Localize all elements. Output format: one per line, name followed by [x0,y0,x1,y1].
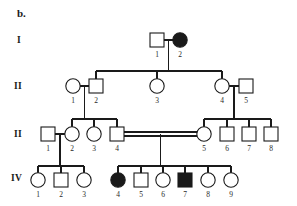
individual-II-1[interactable]: 1 [66,79,80,105]
female-circle-unaffected[interactable] [77,173,91,187]
individual-number: 9 [229,190,233,199]
individual-number: 1 [155,50,159,59]
female-circle-affected[interactable] [111,173,125,187]
male-square-unaffected[interactable] [134,173,148,187]
individual-number: 3 [92,144,96,153]
individual-IV-2[interactable]: 2 [54,173,68,199]
male-square-unaffected[interactable] [54,173,68,187]
female-circle-affected[interactable] [173,33,187,47]
female-circle-unaffected[interactable] [31,173,45,187]
individual-number: 3 [82,190,86,199]
individual-III-8[interactable]: 8 [264,127,278,153]
individual-II-5[interactable]: 5 [239,79,253,105]
female-circle-unaffected[interactable] [65,127,79,141]
panel-label: b. [17,7,26,19]
male-square-unaffected[interactable] [242,127,256,141]
individual-III-6[interactable]: 6 [220,127,234,153]
female-circle-unaffected[interactable] [215,79,229,93]
individual-I-2[interactable]: 2 [173,33,187,59]
generation-label-4: IV [11,173,22,183]
female-circle-unaffected[interactable] [156,173,170,187]
male-square-unaffected[interactable] [110,127,124,141]
individual-number: 7 [247,144,251,153]
pedigree-diagram: b. I II II IV [0,0,297,206]
female-circle-unaffected[interactable] [197,127,211,141]
individual-number: 5 [244,96,248,105]
individual-number: 2 [59,190,63,199]
individual-number: 5 [139,190,143,199]
individual-number: 2 [70,144,74,153]
individual-number: 4 [116,190,120,199]
generation-III-group: 1 2 3 4 5 6 7 [41,127,278,153]
individual-number: 2 [94,96,98,105]
individual-number: 8 [206,190,210,199]
individual-IV-9[interactable]: 9 [224,173,238,199]
male-square-unaffected[interactable] [89,79,103,93]
female-circle-unaffected[interactable] [201,173,215,187]
individual-number: 2 [178,50,182,59]
individual-III-5[interactable]: 5 [197,127,211,153]
individual-III-2[interactable]: 2 [65,127,79,153]
pedigree-figure: b. I II II IV [0,0,297,206]
individual-IV-4[interactable]: 4 [111,173,125,199]
individual-II-3[interactable]: 3 [150,79,164,105]
generation-II-group: 1 2 3 4 5 [66,79,253,105]
male-square-unaffected[interactable] [239,79,253,93]
individual-number: 6 [225,144,229,153]
generation-label-1: I [17,35,21,45]
individual-number: 4 [115,144,119,153]
female-circle-unaffected[interactable] [66,79,80,93]
pedigree-connectors [38,40,271,173]
generation-label-3: II [14,129,22,139]
individual-number: 4 [220,96,224,105]
individual-number: 6 [161,190,165,199]
individual-number: 3 [155,96,159,105]
individual-IV-7[interactable]: 7 [178,173,192,199]
individual-III-7[interactable]: 7 [242,127,256,153]
male-square-unaffected[interactable] [264,127,278,141]
individual-IV-1[interactable]: 1 [31,173,45,199]
individual-III-3[interactable]: 3 [87,127,101,153]
male-square-unaffected[interactable] [41,127,55,141]
individual-I-1[interactable]: 1 [150,33,164,59]
individual-number: 8 [269,144,273,153]
generation-label-2: II [14,81,22,91]
generation-IV-group: 1 2 3 4 5 6 7 [31,173,238,199]
female-circle-unaffected[interactable] [87,127,101,141]
individual-IV-6[interactable]: 6 [156,173,170,199]
individual-number: 1 [46,144,50,153]
male-square-unaffected[interactable] [150,33,164,47]
individual-number: 1 [71,96,75,105]
individual-number: 5 [202,144,206,153]
individual-number: 7 [183,190,187,199]
female-circle-unaffected[interactable] [150,79,164,93]
male-square-affected[interactable] [178,173,192,187]
individual-IV-8[interactable]: 8 [201,173,215,199]
individual-III-4[interactable]: 4 [110,127,124,153]
individual-II-2[interactable]: 2 [89,79,103,105]
individual-II-4[interactable]: 4 [215,79,229,105]
individual-III-1[interactable]: 1 [41,127,55,153]
male-square-unaffected[interactable] [220,127,234,141]
female-circle-unaffected[interactable] [224,173,238,187]
individual-IV-5[interactable]: 5 [134,173,148,199]
individual-IV-3[interactable]: 3 [77,173,91,199]
individual-number: 1 [36,190,40,199]
